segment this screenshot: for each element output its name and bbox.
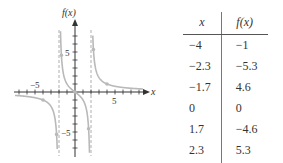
cell-fx: 4.6	[221, 77, 267, 98]
data-point	[92, 48, 96, 52]
y-axis-arrow-icon	[72, 19, 78, 26]
data-point	[105, 82, 109, 86]
table-row: 00	[183, 98, 268, 119]
cell-fx: −1	[221, 35, 267, 57]
function-graph: x −5 5 f(x) 5 −5	[0, 0, 160, 163]
x-tick-label-pos: 5	[112, 96, 117, 106]
x-tick-label-neg: −5	[30, 80, 40, 90]
cell-x: −2.3	[183, 56, 221, 77]
cell-fx: −4.6	[221, 119, 267, 140]
data-point	[55, 133, 59, 137]
y-axis: f(x) 5 −5	[61, 7, 78, 157]
values-table: x f(x) −4−1 −2.3−5.3 −1.74.6 00 1.7−4.6 …	[183, 12, 268, 163]
data-point	[41, 98, 45, 102]
data-point	[87, 127, 91, 131]
table-row: −2.3−5.3	[183, 56, 268, 77]
cell-fx: 5.3	[221, 140, 267, 161]
cell-x: 0	[183, 98, 221, 119]
table-row: −4−1	[183, 35, 268, 57]
header-x: x	[183, 12, 221, 35]
cell-fx: −5.3	[221, 56, 267, 77]
table-row: 1.7−4.6	[183, 119, 268, 140]
y-tick-label-pos: 5	[65, 48, 70, 58]
header-fx: f(x)	[221, 12, 267, 35]
cell-x: −1.7	[183, 77, 221, 98]
y-axis-label: f(x)	[62, 7, 77, 19]
y-tick-label-neg: −5	[61, 128, 71, 138]
x-axis-label: x	[150, 86, 156, 97]
cell-fx: 0	[221, 98, 267, 119]
x-axis: x −5 5	[14, 80, 156, 106]
x-axis-arrow-icon	[143, 89, 150, 95]
table-row: −1.74.6	[183, 77, 268, 98]
data-point	[60, 53, 64, 57]
cell-x: 4	[183, 161, 221, 163]
table-row: 41	[183, 161, 268, 163]
table-row: 2.35.3	[183, 140, 268, 161]
cell-x: −4	[183, 35, 221, 57]
data-point	[73, 90, 77, 94]
cell-x: 1.7	[183, 119, 221, 140]
table-header-row: x f(x)	[183, 12, 268, 35]
cell-fx: 1	[221, 161, 267, 163]
cell-x: 2.3	[183, 140, 221, 161]
